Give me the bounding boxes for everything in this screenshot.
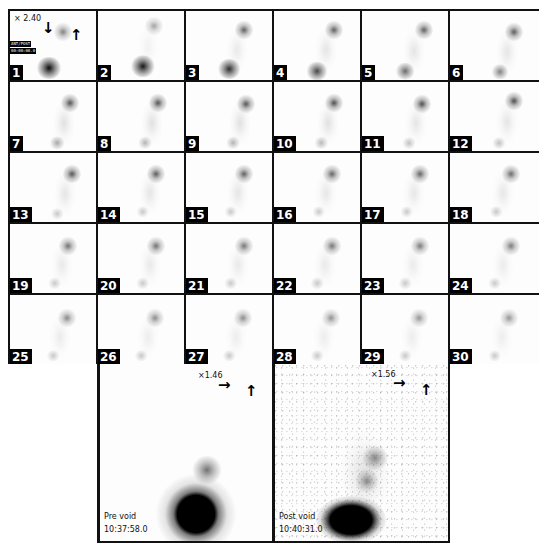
kidney-blob	[59, 236, 77, 256]
renogram-frame: 18	[450, 153, 539, 222]
bladder-blob	[398, 350, 412, 361]
kidney-blob	[145, 16, 163, 36]
bladder-blob	[488, 350, 502, 361]
frame-number: 20	[98, 278, 120, 293]
renogram-frame: 3	[186, 11, 272, 80]
bladder-blob	[36, 57, 62, 79]
renogram-frame: 9	[186, 82, 272, 151]
bladder-blob	[50, 136, 66, 149]
bladder-blob	[136, 278, 150, 289]
renogram-frame: 16	[274, 153, 360, 222]
frame-info-tag: ANT/POST	[10, 41, 31, 47]
bladder-blob	[310, 350, 324, 361]
bladder-blob	[492, 137, 506, 149]
renogram-frame: 19	[10, 224, 96, 293]
frame-number: 25	[10, 349, 32, 364]
renogram-frame: 25	[10, 295, 96, 364]
kidney-blob	[147, 236, 165, 256]
kidney-blob	[500, 308, 518, 328]
bladder-blob	[491, 64, 509, 79]
renogram-frame: 24	[450, 224, 539, 293]
renogram-frame: 6	[450, 11, 539, 80]
frame-number: 7	[10, 136, 23, 151]
frame-number: 28	[274, 349, 296, 364]
kidney-blob	[325, 93, 343, 113]
frame-number: 27	[186, 349, 208, 364]
frame-number: 11	[362, 136, 384, 151]
bladder-blob	[48, 278, 62, 289]
frame-number: 17	[362, 207, 384, 222]
renogram-frame: 8	[98, 82, 184, 151]
bladder-blob	[224, 278, 238, 289]
renogram-frame: 4	[274, 11, 360, 80]
renogram-frame: 23	[362, 224, 448, 293]
kidney-blob	[322, 308, 340, 328]
bladder-blob	[490, 206, 504, 217]
right-arrow-icon: →	[218, 378, 231, 393]
renogram-frame: 20	[98, 224, 184, 293]
renogram-frame: 13	[10, 153, 96, 222]
renogram-frame: 28	[274, 295, 360, 364]
kidney-blob	[323, 164, 341, 184]
kidney-blob	[235, 20, 253, 40]
bladder-blob	[222, 350, 236, 361]
bladder-blob	[400, 206, 414, 217]
bladder-blob	[136, 206, 150, 217]
bladder-blob	[130, 55, 155, 76]
kidney-blob	[415, 20, 433, 40]
frame-number: 19	[10, 278, 32, 293]
bladder-blob	[402, 137, 416, 149]
frame-number: 2	[98, 65, 111, 80]
kidney-blob	[411, 236, 429, 256]
renogram-frame: 22	[274, 224, 360, 293]
frame-number: 26	[98, 349, 120, 364]
kidney-blob	[325, 20, 343, 40]
panel-time: 10:40:31.0	[279, 525, 323, 534]
down-arrow-icon: ↓	[42, 21, 55, 36]
renogram-frame: 10	[274, 82, 360, 151]
frame-number: 10	[274, 136, 296, 151]
renogram-frame: 14	[98, 153, 184, 222]
bladder-blob	[314, 137, 328, 149]
panel-label: Post void	[279, 512, 315, 521]
kidney-blob	[146, 308, 164, 328]
frame-number: 6	[450, 65, 463, 80]
kidney-blob	[411, 164, 429, 184]
bladder-blob	[134, 350, 148, 361]
renogram-frame: 26	[98, 295, 184, 364]
frame-number: 13	[10, 207, 32, 222]
bladder-blob	[156, 474, 236, 543]
scale-factor: × 2.40	[14, 14, 41, 23]
renogram-frame: 11	[362, 82, 448, 151]
kidney-blob	[323, 236, 341, 256]
frame-number: 3	[186, 65, 199, 80]
kidney-blob	[58, 308, 76, 328]
renogram-frame: 29	[362, 295, 448, 364]
frame-number: 22	[274, 278, 296, 293]
kidney-blob	[63, 164, 81, 184]
frame-number: 14	[98, 207, 120, 222]
renogram-frame: 2	[98, 11, 184, 80]
bladder-blob	[395, 63, 415, 80]
kidney-blob	[235, 236, 253, 256]
kidney-blob	[149, 93, 167, 113]
scale-factor: ×1.56	[371, 370, 396, 379]
frame-number: 1	[10, 65, 23, 80]
frame-number: 21	[186, 278, 208, 293]
kidney-blob	[502, 236, 520, 256]
bladder-blob	[224, 206, 238, 217]
kidney-blob	[410, 308, 428, 328]
kidney-blob	[502, 164, 520, 184]
renogram-frame: 5	[362, 11, 448, 80]
renogram-frame-grid: 1× 2.40↓↑ANT/POST00:00:00.02345678910111…	[8, 9, 539, 364]
bladder-blob	[226, 136, 241, 149]
frame-number: 15	[186, 207, 208, 222]
panel-label: Pre void	[104, 512, 136, 521]
bladder-blob	[51, 208, 65, 219]
frame-number: 30	[450, 349, 472, 364]
renogram-frame: 15	[186, 153, 272, 222]
up-arrow-icon: ↑	[245, 384, 258, 399]
kidney-blob	[505, 91, 523, 111]
bladder-blob	[488, 278, 502, 289]
bladder-blob	[398, 278, 412, 289]
